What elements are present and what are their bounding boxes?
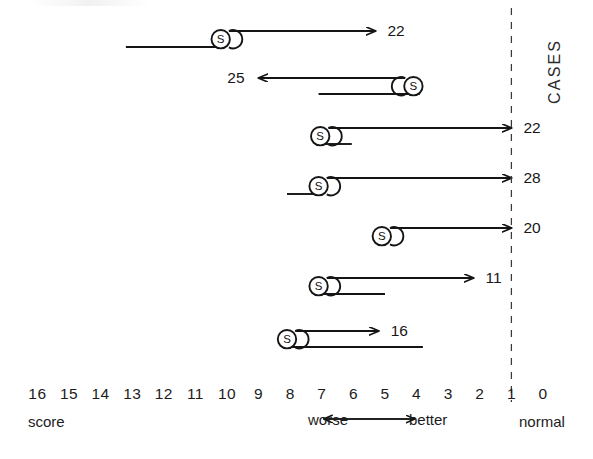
x-tick-label-6: 6	[349, 385, 358, 403]
marker-s-circle	[309, 177, 327, 195]
case-value-case-1: 22	[388, 22, 405, 40]
series-marker-loop	[390, 227, 403, 245]
x-tick-label-12: 12	[155, 385, 173, 403]
normal-caption: normal	[519, 413, 565, 430]
case-value-case-5: 20	[523, 219, 540, 237]
series-row-5	[373, 227, 512, 245]
series-row-6	[309, 277, 473, 295]
marker-s-circle	[309, 277, 327, 295]
x-tick-label-11: 11	[187, 385, 204, 403]
x-tick-label-0: 0	[538, 385, 547, 403]
worse-caption: worse	[308, 411, 348, 428]
x-tick-label-7: 7	[317, 385, 326, 403]
x-tick-label-8: 8	[286, 385, 295, 403]
series-marker-loop	[295, 330, 308, 348]
case-value-case-6: 11	[486, 269, 502, 287]
x-tick-label-1: 1	[507, 385, 516, 403]
series-marker-loop	[392, 77, 405, 95]
series-row-2	[259, 77, 423, 95]
cases-axis-title: CASES	[546, 39, 564, 104]
marker-s-circle	[311, 127, 329, 145]
x-tick-label-4: 4	[412, 385, 421, 403]
series-marker-loop	[327, 177, 340, 195]
series-row-4	[287, 177, 511, 195]
x-tick-label-15: 15	[60, 385, 78, 403]
case-value-case-2: 25	[227, 69, 244, 87]
x-tick-label-13: 13	[123, 385, 141, 403]
x-tick-label-14: 14	[92, 385, 110, 403]
series-marker-loop	[229, 30, 242, 48]
series-row-3	[311, 127, 511, 145]
case-value-case-7: 16	[391, 322, 408, 340]
series-row-1	[126, 30, 376, 48]
x-tick-label-10: 10	[218, 385, 236, 403]
series-layer	[126, 30, 512, 348]
x-tick-label-16: 16	[28, 385, 46, 403]
case-value-case-4: 28	[523, 169, 540, 187]
marker-s-circle	[373, 227, 391, 245]
score-axis-caption: score	[28, 413, 65, 430]
x-tick-label-3: 3	[444, 385, 453, 403]
series-marker-loop	[327, 277, 340, 295]
marker-s-circle	[278, 330, 296, 348]
chart-vector-layer	[0, 0, 593, 459]
x-tick-label-9: 9	[254, 385, 263, 403]
case-value-case-3: 22	[523, 119, 540, 137]
series-marker-loop	[328, 127, 341, 145]
x-tick-label-5: 5	[380, 385, 389, 403]
figure-canvas: 161514131211109876543210 22252228201116 …	[0, 0, 593, 459]
marker-s-circle	[212, 30, 230, 48]
better-caption: better	[409, 411, 447, 428]
x-tick-label-2: 2	[475, 385, 484, 403]
marker-s-circle	[404, 77, 422, 95]
